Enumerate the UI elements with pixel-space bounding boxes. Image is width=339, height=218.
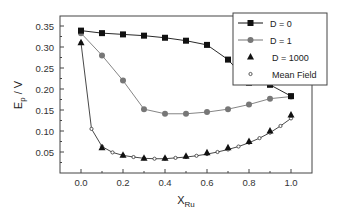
data-point-d-1000: [288, 111, 295, 118]
legend-label: D = 1000: [272, 53, 309, 63]
data-point-d-1000: [78, 39, 85, 46]
x-axis-label-subscript: Ru: [185, 200, 195, 209]
data-point-d-0: [183, 38, 189, 44]
data-point-d-0: [288, 93, 294, 99]
legend-marker-d-1: [248, 37, 254, 43]
data-point-mean-field: [111, 151, 114, 154]
data-point-d-1: [99, 52, 105, 58]
legend: D = 0D = 1D = 1000Mean Field: [233, 13, 327, 85]
legend-marker-d-0: [248, 20, 254, 26]
data-point-d-0: [225, 57, 231, 63]
data-point-d-1: [225, 106, 231, 112]
data-point-d-1: [183, 111, 189, 117]
x-tick-label: 0.4: [158, 177, 171, 188]
y-tick-label: 0.15: [36, 105, 55, 116]
data-point-d-1000: [204, 149, 211, 156]
y-tick-label: 0.25: [36, 63, 55, 74]
x-tick-label: 1.0: [284, 177, 297, 188]
legend-label: Mean Field: [272, 70, 317, 80]
data-point-d-0: [204, 42, 210, 48]
data-point-mean-field: [90, 127, 93, 130]
data-point-d-0: [99, 30, 105, 36]
legend-label: D = 0: [270, 19, 292, 29]
data-point-d-1: [141, 106, 147, 112]
data-point-mean-field: [258, 137, 261, 140]
x-tick-label: 0.2: [116, 177, 129, 188]
data-point-mean-field: [279, 124, 282, 127]
data-point-d-1000: [225, 144, 232, 151]
data-point-d-1000: [183, 152, 190, 159]
data-point-d-1: [162, 111, 168, 117]
legend-marker-mean-field: [249, 72, 252, 75]
legend-label: D = 1: [270, 36, 292, 46]
y-tick-label: 0.10: [36, 126, 55, 137]
y-tick-label: 0.20: [36, 84, 55, 95]
data-point-d-0: [120, 31, 126, 37]
y-axis-label: Ep / V: [12, 80, 27, 109]
data-point-d-1000: [246, 138, 253, 145]
data-point-d-1: [120, 78, 126, 84]
y-tick-label: 0.05: [36, 147, 55, 158]
y-tick-label: 0.35: [36, 21, 55, 32]
data-point-d-1: [204, 109, 210, 115]
data-point-d-1000: [99, 144, 106, 151]
x-tick-label: 0.0: [74, 177, 87, 188]
data-point-d-1000: [162, 154, 169, 161]
y-tick-label: 0.30: [36, 42, 55, 53]
data-point-d-0: [141, 33, 147, 39]
x-ticks: 0.00.20.40.60.81.0: [74, 169, 297, 188]
data-point-mean-field: [195, 154, 198, 157]
x-tick-label: 0.8: [242, 177, 255, 188]
data-point-mean-field: [174, 156, 177, 159]
data-point-mean-field: [237, 145, 240, 148]
data-point-mean-field: [132, 155, 135, 158]
data-point-d-0: [162, 35, 168, 41]
x-axis-label: XRu: [177, 194, 195, 209]
data-point-mean-field: [216, 150, 219, 153]
data-point-d-1: [267, 96, 273, 102]
y-axis-label-unit: / V: [12, 80, 24, 97]
data-point-d-1: [246, 102, 252, 108]
data-point-d-1000: [267, 127, 274, 134]
chart: 0.00.20.40.60.81.0 0.050.100.150.200.250…: [0, 0, 339, 218]
data-point-d-1000: [141, 154, 148, 161]
data-point-mean-field: [153, 157, 156, 160]
x-tick-label: 0.6: [200, 177, 213, 188]
data-point-d-0: [78, 28, 84, 34]
